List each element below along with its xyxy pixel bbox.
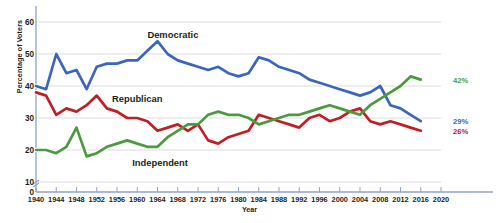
x-tick-2016: 2016 bbox=[413, 195, 429, 204]
x-tick-2008: 2008 bbox=[372, 195, 388, 204]
x-tick-1968: 1968 bbox=[170, 195, 186, 204]
x-axis-title: Year bbox=[0, 205, 499, 214]
x-tick-1948: 1948 bbox=[68, 195, 84, 204]
x-tick-1940: 1940 bbox=[28, 195, 44, 204]
x-tick-1964: 1964 bbox=[149, 195, 165, 204]
x-tick-1956: 1956 bbox=[109, 195, 125, 204]
independent-end-label: 42% bbox=[453, 75, 468, 84]
independent-label: Independent bbox=[132, 157, 188, 168]
x-tick-1972: 1972 bbox=[190, 195, 206, 204]
x-tick-2020: 2020 bbox=[433, 195, 449, 204]
republican-end-label: 26% bbox=[453, 126, 468, 135]
x-tick-1980: 1980 bbox=[230, 195, 246, 204]
x-tick-2012: 2012 bbox=[392, 195, 408, 204]
democratic-label: Democratic bbox=[147, 29, 198, 40]
party-identification-chart: 0102030405060 19401944194819521956196019… bbox=[0, 0, 499, 223]
x-tick-1952: 1952 bbox=[89, 195, 105, 204]
democratic-end-label: 29% bbox=[453, 117, 468, 126]
x-tick-1992: 1992 bbox=[291, 195, 307, 204]
x-tick-2000: 2000 bbox=[332, 195, 348, 204]
x-axis-ticks: 1940194419481952195619601964196819721976… bbox=[0, 0, 499, 223]
x-tick-1988: 1988 bbox=[271, 195, 287, 204]
x-tick-1944: 1944 bbox=[48, 195, 64, 204]
republican-label: Republican bbox=[112, 93, 163, 104]
x-tick-1996: 1996 bbox=[311, 195, 327, 204]
x-tick-1984: 1984 bbox=[251, 195, 267, 204]
x-tick-1976: 1976 bbox=[210, 195, 226, 204]
x-tick-1960: 1960 bbox=[129, 195, 145, 204]
x-tick-2004: 2004 bbox=[352, 195, 368, 204]
y-axis-title: Percentage of Voters bbox=[15, 12, 24, 102]
